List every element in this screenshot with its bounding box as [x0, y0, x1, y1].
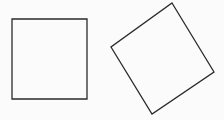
rotated-square [111, 3, 214, 114]
figure-canvas: Two squares outline figure An axis-align… [0, 0, 224, 120]
shapes-svg: Two squares outline figure An axis-align… [0, 0, 224, 120]
axis-aligned-square [12, 19, 87, 99]
